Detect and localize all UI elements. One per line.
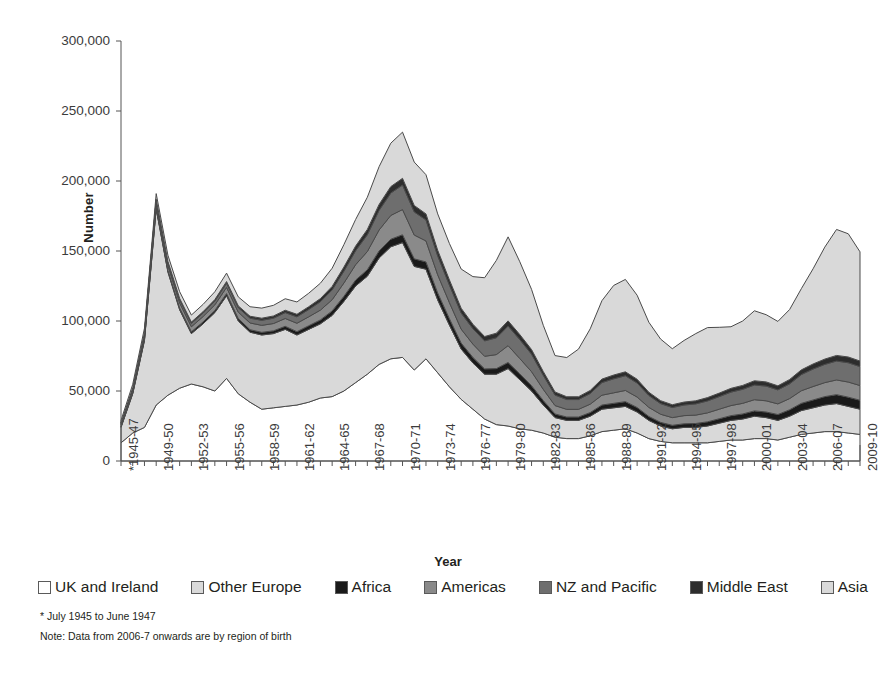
legend-swatch-icon bbox=[335, 581, 348, 594]
x-tick-label: 1949-50 bbox=[161, 423, 176, 471]
y-tick-label: 150,000 bbox=[18, 244, 110, 258]
settler-arrivals-area-chart: Number 050,000100,000150,000200,000250,0… bbox=[0, 0, 896, 690]
footnote-asterisk: * July 1945 to June 1947 bbox=[40, 610, 156, 622]
legend-item-other-europe[interactable]: Other Europe bbox=[191, 578, 301, 596]
x-tick-label: 1997-98 bbox=[724, 423, 739, 471]
legend-label: Other Europe bbox=[208, 578, 301, 596]
legend-swatch-icon bbox=[539, 581, 552, 594]
x-tick-label: 1979-80 bbox=[513, 423, 528, 471]
x-tick-label: 1973-74 bbox=[443, 423, 458, 471]
y-tick-label: 200,000 bbox=[18, 174, 110, 188]
y-tick-label: 300,000 bbox=[18, 34, 110, 48]
legend-label: NZ and Pacific bbox=[556, 578, 657, 596]
legend-item-asia[interactable]: Asia bbox=[821, 578, 868, 596]
legend-swatch-icon bbox=[690, 581, 703, 594]
footnote-note: Note: Data from 2006-7 onwards are by re… bbox=[40, 630, 292, 642]
y-tick-label: 250,000 bbox=[18, 104, 110, 118]
x-tick-label: 1985-86 bbox=[583, 423, 598, 471]
legend-item-africa[interactable]: Africa bbox=[335, 578, 392, 596]
x-tick-label: 1970-71 bbox=[408, 423, 423, 471]
legend-label: Asia bbox=[838, 578, 868, 596]
legend-item-uk-and-ireland[interactable]: UK and Ireland bbox=[38, 578, 158, 596]
x-tick-label: 1955-56 bbox=[232, 423, 247, 471]
y-tick-label: 50,000 bbox=[18, 384, 110, 398]
legend-label: Americas bbox=[441, 578, 506, 596]
x-tick-label: 2000-01 bbox=[759, 423, 774, 471]
x-tick-label: 1976-77 bbox=[478, 423, 493, 471]
legend-swatch-icon bbox=[821, 581, 834, 594]
legend-label: Africa bbox=[352, 578, 392, 596]
x-tick-label: 1952-53 bbox=[196, 423, 211, 471]
legend-swatch-icon bbox=[38, 581, 51, 594]
y-tick-label: 0 bbox=[18, 454, 110, 468]
x-tick-label: 1988-89 bbox=[619, 423, 634, 471]
x-tick-label: 2006-07 bbox=[830, 423, 845, 471]
legend-swatch-icon bbox=[424, 581, 437, 594]
x-tick-label: 1961-62 bbox=[302, 423, 317, 471]
chart-legend: UK and IrelandOther EuropeAfricaAmericas… bbox=[38, 578, 868, 596]
y-tick-label: 100,000 bbox=[18, 314, 110, 328]
legend-swatch-icon bbox=[191, 581, 204, 594]
x-tick-label: 1967-68 bbox=[372, 423, 387, 471]
stacked-areas-group bbox=[121, 132, 860, 461]
x-tick-label: *1945-47 bbox=[126, 418, 141, 471]
x-tick-label: 2003-04 bbox=[795, 423, 810, 471]
legend-label: UK and Ireland bbox=[55, 578, 158, 596]
legend-label: Middle East bbox=[707, 578, 788, 596]
x-tick-label: 2009-10 bbox=[865, 423, 880, 471]
legend-item-nz-and-pacific[interactable]: NZ and Pacific bbox=[539, 578, 657, 596]
x-tick-label: 1991-92 bbox=[654, 423, 669, 471]
legend-item-americas[interactable]: Americas bbox=[424, 578, 506, 596]
x-tick-label: 1964-65 bbox=[337, 423, 352, 471]
x-tick-label: 1994-95 bbox=[689, 423, 704, 471]
x-tick-label: 1958-59 bbox=[267, 423, 282, 471]
x-tick-label: 1982-83 bbox=[548, 423, 563, 471]
x-axis-title: Year bbox=[0, 554, 896, 569]
legend-item-middle-east[interactable]: Middle East bbox=[690, 578, 788, 596]
